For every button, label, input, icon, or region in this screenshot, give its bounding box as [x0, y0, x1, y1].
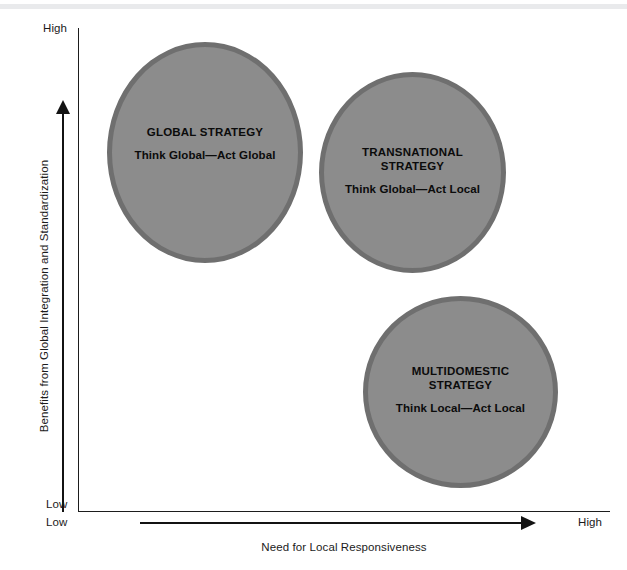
bubble-transnational-strategy: TRANSNATIONAL STRATEGY Think Global—Act …: [319, 72, 506, 273]
x-axis-title: Need for Local Responsiveness: [78, 541, 610, 553]
bubble-multidomestic-strategy-title-line2: STRATEGY: [368, 378, 553, 392]
bubble-multidomestic-strategy-subtitle: Think Local—Act Local: [368, 401, 553, 415]
y-axis-low-label: Low: [46, 498, 67, 510]
bubble-global-strategy-subtitle: Think Global—Act Global: [112, 148, 298, 162]
bubble-global-strategy: GLOBAL STRATEGY Think Global—Act Global: [107, 42, 303, 263]
page-top-rule: [0, 4, 627, 9]
bubble-transnational-strategy-title-line2: STRATEGY: [324, 159, 501, 173]
x-axis-low-label: Low: [46, 516, 67, 528]
y-axis-line: [78, 28, 79, 512]
y-axis-high-label: High: [43, 22, 67, 34]
bubble-transnational-strategy-title-line1: TRANSNATIONAL: [324, 145, 501, 159]
x-axis-arrow-shaft: [140, 522, 523, 524]
y-axis-title: Benefits from Global Integration and Sta…: [38, 146, 50, 446]
x-axis-arrow-head-icon: [521, 516, 536, 530]
bubble-multidomestic-strategy-title-line1: MULTIDOMESTIC: [368, 364, 553, 378]
x-axis-line: [78, 511, 610, 512]
strategy-matrix-figure: High Low Low High Benefits from Global I…: [0, 0, 627, 570]
bubble-transnational-strategy-subtitle: Think Global—Act Local: [324, 182, 501, 196]
bubble-multidomestic-strategy: MULTIDOMESTIC STRATEGY Think Local—Act L…: [363, 296, 558, 488]
y-axis-arrow-shaft: [62, 112, 64, 512]
y-axis-arrow-head-icon: [56, 100, 70, 114]
bubble-global-strategy-title: GLOBAL STRATEGY: [112, 125, 298, 139]
x-axis-high-label: High: [578, 516, 602, 528]
